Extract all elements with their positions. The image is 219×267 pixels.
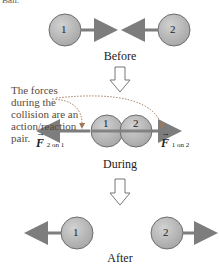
stage-label-after: After <box>80 251 160 266</box>
before-stage <box>49 14 190 46</box>
force-label-2-on-1: → F 2 on 1 <box>36 136 64 151</box>
annotation-text: The forces during the collision are an a… <box>11 84 91 144</box>
ball-2-before-label: 2 <box>170 23 176 35</box>
transition-arrow-2 <box>110 179 130 205</box>
ball-1-before-label: 1 <box>61 23 67 35</box>
ball-2-after-label: 2 <box>163 226 169 238</box>
ball-1-during-label: 1 <box>103 117 109 129</box>
ball-1-after-label: 1 <box>73 226 79 238</box>
stage-label-before: Before <box>80 49 160 64</box>
force-label-1-on-2: → F 1 on 2 <box>161 136 189 151</box>
ball-2-during-label: 2 <box>133 117 139 129</box>
stage-label-during: During <box>80 157 160 172</box>
transition-arrow-1 <box>110 67 130 92</box>
after-stage <box>30 217 212 249</box>
